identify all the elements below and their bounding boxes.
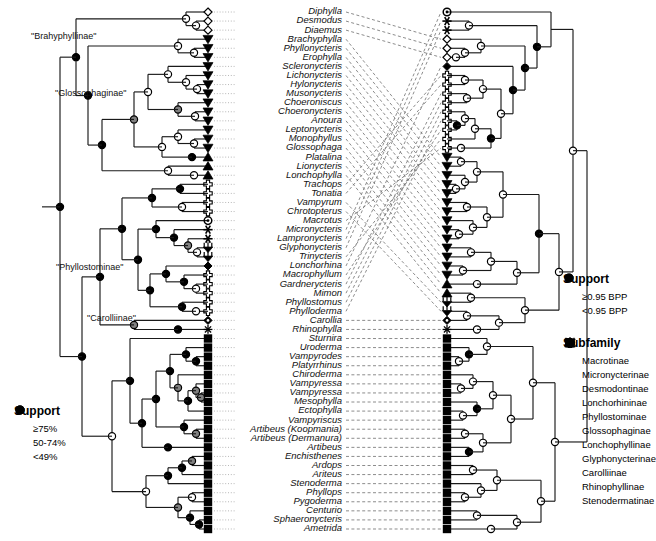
legend-item-label: Stenodermatinae (579, 495, 654, 506)
rhinophyllinae-asterisk-icon (563, 479, 579, 493)
legend-item-label: Phyllostominae (579, 411, 646, 422)
legend-support-right: Support ≥0.95 BPP <0.95 BPP (563, 272, 628, 317)
phyllostominae-cross-icon (563, 409, 579, 423)
legend-item-label: Lonchorhininae (579, 397, 647, 408)
legend-item-label: ≥75% (30, 423, 57, 434)
clade-label: "Glossophaginae" (55, 88, 126, 98)
legend-item: Rhinophyllinae (563, 479, 656, 493)
legend-item: Micronycterinae (563, 367, 656, 381)
micronycterinae-asterisk-icon (563, 367, 579, 381)
lonchophyllinae-triangle-up-icon (563, 437, 579, 451)
legend-item-label: Micronycterinae (579, 369, 649, 380)
legend-item-label: Macrotinae (579, 355, 629, 366)
open-circle-icon (563, 289, 579, 303)
macrotinae-circle-icon (563, 353, 579, 367)
gray-circle-icon (14, 435, 30, 449)
legend-item: Lonchophyllinae (563, 437, 656, 451)
legend-item-label: Rhinophyllinae (579, 481, 644, 492)
legend-item-label: Glyphonycterinae (579, 453, 656, 464)
legend-item: Glossophaginae (563, 423, 656, 437)
legend-item: 50-74% (14, 435, 66, 449)
legend-item: Stenodermatinae (563, 493, 656, 507)
legend-item: <49% (14, 449, 66, 463)
legend-item: Macrotinae (563, 353, 656, 367)
legend-item: <0.95 BPP (563, 303, 628, 317)
legend-item-label: Carolliinae (579, 467, 627, 478)
clade-label: "Carolliinae" (87, 313, 136, 323)
legend-item: ≥0.95 BPP (563, 289, 628, 303)
legend-item: ≥75% (14, 421, 66, 435)
open-circle-icon (14, 421, 30, 435)
legend-item: Glyphonycterinae (563, 451, 656, 465)
legend-item: Phyllostominae (563, 409, 656, 423)
carolliinae-diamond-icon (563, 465, 579, 479)
legend-subfamily-rows: MacrotinaeMicronycterinaeDesmodontinaeLo… (563, 353, 656, 507)
legend-item-label: <49% (30, 451, 58, 462)
legend-support-left: Support ≥75% 50-74% <49% (14, 404, 66, 463)
legend-item-label: 50-74% (30, 437, 66, 448)
clade-label: "Brahyphyllinae" (31, 31, 96, 41)
black-circle-icon (563, 303, 579, 317)
stenodermatinae-square-icon (563, 493, 579, 507)
legend-item: Desmodontinae (563, 381, 656, 395)
taxon-label: Ametrida (232, 523, 342, 533)
legend-item: Carolliinae (563, 465, 656, 479)
glossophaginae-triangle-down-icon (563, 423, 579, 437)
legend-item-label: Glossophaginae (579, 425, 651, 436)
lonchorhininae-diamond-icon (563, 395, 579, 409)
legend-item-label: <0.95 BPP (579, 305, 628, 316)
black-circle-icon (14, 449, 30, 463)
glyphonycterinae-trident-icon (563, 451, 579, 465)
legend-item: Lonchorhininae (563, 395, 656, 409)
desmodontinae-diamond-icon (563, 381, 579, 395)
legend-subfamily: Subfamily MacrotinaeMicronycterinaeDesmo… (563, 336, 656, 507)
legend-item-label: Lonchophyllinae (579, 439, 651, 450)
legend-item-label: ≥0.95 BPP (579, 291, 627, 302)
legend-item-label: Desmodontinae (579, 383, 649, 394)
clade-label: "Phyllostominae" (56, 262, 123, 272)
